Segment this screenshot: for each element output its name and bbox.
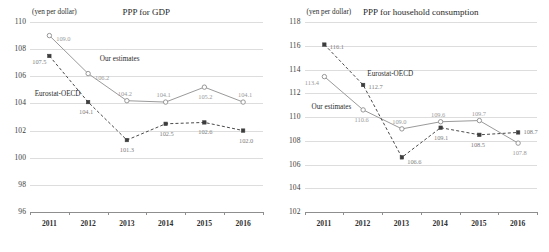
data-point-marker <box>477 118 481 122</box>
data-point-label: 110.6 <box>355 115 369 122</box>
series-annotation-label: Eurostat-OECD <box>35 90 81 98</box>
data-point-label: 102.0 <box>239 136 253 143</box>
data-point-label: 107.5 <box>32 57 46 64</box>
chart-panel-ppp-household-consumption: 1181161141121101081061041022011201220132… <box>275 0 549 252</box>
data-point-label: 108.7 <box>523 128 537 135</box>
data-point-label: 113.4 <box>305 78 319 85</box>
data-point-marker <box>322 43 325 46</box>
data-point-marker <box>400 156 403 159</box>
data-point-label: 104.1 <box>156 91 170 98</box>
series-annotation-label: Our estimates <box>100 55 140 63</box>
data-point-marker <box>360 108 364 112</box>
data-point-marker <box>125 138 128 141</box>
data-point-label: 108.5 <box>471 140 485 147</box>
series-annotation-label: Our estimates <box>311 103 351 111</box>
data-point-marker <box>438 126 441 129</box>
data-point-marker <box>125 99 129 103</box>
data-point-label: 107.8 <box>512 149 526 156</box>
series-annotation-label: Eurostat-OECD <box>367 70 413 78</box>
data-point-label: 104.1 <box>79 108 93 115</box>
data-point-marker <box>241 129 244 132</box>
data-point-marker <box>48 54 51 57</box>
data-point-marker <box>477 133 480 136</box>
data-point-marker <box>241 100 245 104</box>
data-point-label: 102.5 <box>159 129 173 136</box>
data-point-marker <box>399 127 403 131</box>
series-plot-area <box>0 0 275 252</box>
data-point-label: 106.2 <box>95 73 109 80</box>
data-point-marker <box>164 122 167 125</box>
data-point-marker <box>438 120 442 124</box>
data-point-marker <box>86 71 90 75</box>
data-point-label: 109.0 <box>56 34 70 41</box>
data-point-marker <box>202 85 206 89</box>
data-point-marker <box>47 33 51 37</box>
data-point-marker <box>203 121 206 124</box>
data-point-marker <box>163 100 167 104</box>
data-point-label: 106.6 <box>407 158 421 165</box>
data-point-label: 116.1 <box>330 42 344 49</box>
data-point-label: 104.2 <box>118 89 132 96</box>
chart-figure: 1101081061041021009896201120122013201420… <box>0 0 549 252</box>
data-point-label: 112.7 <box>369 82 383 89</box>
data-point-label: 104.1 <box>238 91 252 98</box>
data-point-label: 109.1 <box>434 133 448 140</box>
data-point-label: 109.6 <box>431 110 445 117</box>
data-point-label: 102.6 <box>198 128 212 135</box>
data-point-label: 101.3 <box>120 146 134 153</box>
data-point-marker <box>361 83 364 86</box>
data-point-marker <box>86 100 89 103</box>
series-plot-area <box>275 0 549 252</box>
data-point-label: 105.2 <box>198 93 212 100</box>
data-point-marker <box>516 131 519 134</box>
data-point-label: 109.0 <box>392 117 406 124</box>
chart-panel-ppp-gdp: 1101081061041021009896201120122013201420… <box>0 0 275 252</box>
data-point-marker <box>515 141 519 145</box>
series-line-eurostat-oecd <box>49 56 243 140</box>
series-line-our-estimates <box>324 77 518 144</box>
data-point-label: 109.7 <box>472 109 486 116</box>
data-point-marker <box>322 74 326 78</box>
